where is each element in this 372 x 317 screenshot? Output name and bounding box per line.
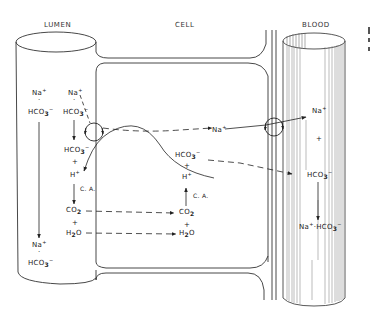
luminal-co2: CO2 <box>66 207 81 215</box>
page-edge-marks <box>368 27 370 51</box>
blood-hco3: HCO3− <box>307 170 333 180</box>
dash-co2 <box>86 211 174 213</box>
cell-carbonic-anhydrase: C. A. <box>193 193 208 199</box>
lumen-hco3-label: HCO3− <box>28 107 54 117</box>
dash-h2o <box>86 233 176 234</box>
header-blood: BLOOD <box>302 22 330 29</box>
cell-plus-1: + <box>184 163 190 170</box>
blood-na: Na+ <box>312 106 327 115</box>
luminal-h: H+ <box>70 170 80 179</box>
lumen-tubule <box>16 32 250 284</box>
lumen-hco3-label-2: HCO3− <box>63 107 89 117</box>
header-lumen: LUMEN <box>44 22 71 29</box>
lumen-dot: · <box>38 97 41 104</box>
renal-bicarbonate-transport-diagram: LUMEN CELL BLOOD Na+ · HCO3− Na+ · HCO3−… <box>0 0 372 317</box>
cell-hco3: HCO3− <box>175 150 201 160</box>
cell-h: H+ <box>182 172 192 181</box>
dash-hco3-to-blood <box>208 160 292 174</box>
luminal-plus-1: + <box>72 159 78 166</box>
cell-co2: CO2 <box>179 209 194 217</box>
blood-plus: + <box>316 136 322 143</box>
cell-na: Na+ <box>212 125 227 134</box>
cell-plus-2: + <box>184 222 190 229</box>
lumen-hco3-bottom: HCO3− <box>28 258 54 268</box>
lumen-dot-2: · <box>73 97 76 104</box>
luminal-exchanger <box>85 123 103 141</box>
luminal-hco3: HCO3− <box>64 145 90 155</box>
blood-sodium-bicarbonate: Na+·HCO3− <box>299 222 342 232</box>
lumen-dot-bottom: · <box>38 249 41 256</box>
luminal-h2o: H2O <box>66 230 82 238</box>
dash-exchanger-to-na <box>103 128 212 131</box>
header-cell: CELL <box>175 22 195 29</box>
cell-h2o: H2O <box>179 230 195 238</box>
luminal-carbonic-anhydrase: C. A. <box>80 186 95 192</box>
cell-outline <box>248 30 276 300</box>
luminal-plus-2: + <box>72 220 78 227</box>
